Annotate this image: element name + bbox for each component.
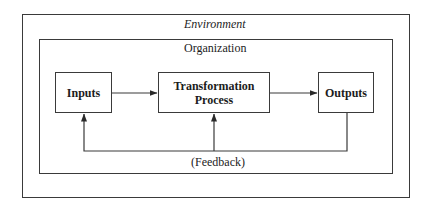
- organization-label: Organization: [184, 41, 246, 56]
- inputs-label: Inputs: [67, 86, 100, 100]
- inputs-node: Inputs: [55, 72, 112, 113]
- transformation-label-line2: Process: [195, 93, 233, 107]
- environment-label: Environment: [184, 17, 246, 32]
- transformation-process-node: Transformation Process: [158, 72, 270, 113]
- feedback-label: (Feedback): [191, 155, 245, 170]
- outputs-node: Outputs: [318, 72, 374, 113]
- outputs-label: Outputs: [325, 86, 367, 100]
- transformation-label-line1: Transformation: [173, 79, 254, 93]
